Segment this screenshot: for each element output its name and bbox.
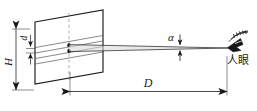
label-H: H <box>2 57 14 67</box>
sight-line-wedge <box>69 45 228 52</box>
label-d: d <box>19 35 29 40</box>
optics-diagram: H d α <box>0 0 257 111</box>
dimension-alpha: α <box>168 31 180 61</box>
dimension-d: d <box>19 35 35 65</box>
label-human-eye: 人眼 <box>227 54 249 67</box>
human-eye-icon <box>228 31 249 52</box>
figure-container: H d α <box>0 0 257 111</box>
dimension-H: H <box>2 29 34 90</box>
sight-wedge-fill <box>69 45 228 52</box>
label-alpha: α <box>168 31 174 43</box>
label-D: D <box>143 76 153 90</box>
